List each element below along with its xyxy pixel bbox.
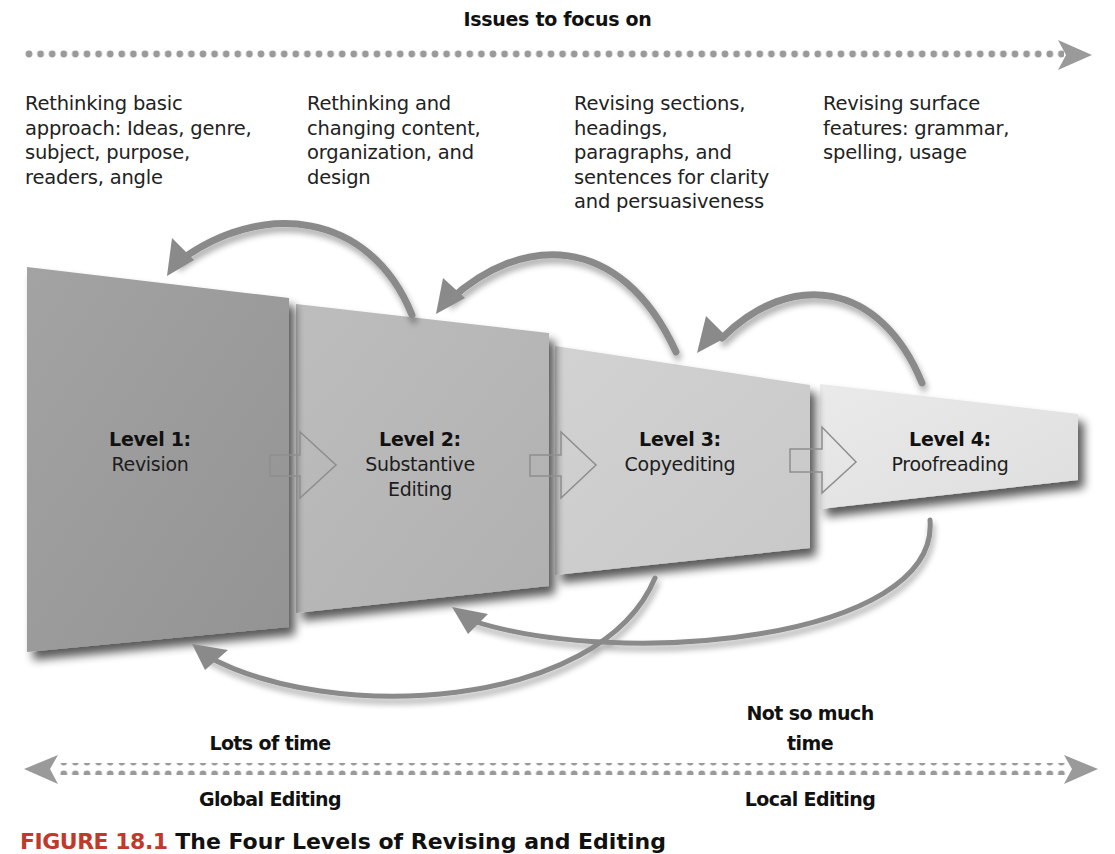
arc-4-to-3 bbox=[722, 295, 922, 383]
issue-level-3: Revising sections, headings, paragraphs,… bbox=[574, 92, 814, 215]
top-return-arrows bbox=[178, 224, 922, 383]
arrow-head-right-icon bbox=[1064, 755, 1098, 784]
level-1-label: Level 1: Revision bbox=[60, 427, 240, 477]
level-3-label: Level 3: Copyediting bbox=[585, 427, 775, 477]
level-4-label: Level 4: Proofreading bbox=[855, 427, 1045, 477]
local-editing-label: Local Editing bbox=[690, 784, 930, 814]
issue-level-4: Revising surface features: grammar, spel… bbox=[823, 92, 1083, 166]
top-axis-title: Issues to focus on bbox=[0, 8, 1115, 30]
arrow-head-icon bbox=[167, 238, 194, 276]
figure-title: The Four Levels of Revising and Editing bbox=[175, 829, 666, 854]
issue-level-1: Rethinking basic approach: Ideas, genre,… bbox=[25, 92, 265, 190]
figure-caption: FIGURE 18.1 The Four Levels of Revising … bbox=[20, 829, 666, 854]
arrow-head-icon bbox=[452, 607, 488, 634]
time-label-left: Lots of time bbox=[160, 728, 380, 758]
arrow-head-left-icon bbox=[24, 755, 58, 784]
global-editing-label: Global Editing bbox=[150, 784, 390, 814]
figure-number: FIGURE 18.1 bbox=[20, 829, 168, 854]
top-axis-arrow bbox=[24, 40, 1092, 70]
time-label-right: Not so much time bbox=[700, 698, 920, 758]
arrow-head-icon bbox=[436, 278, 465, 314]
issue-level-2: Rethinking and changing content, organiz… bbox=[307, 92, 547, 190]
arrow-head-icon bbox=[697, 316, 727, 353]
bottom-axis-arrow bbox=[24, 755, 1098, 784]
level-2-label: Level 2: Substantive Editing bbox=[325, 427, 515, 502]
